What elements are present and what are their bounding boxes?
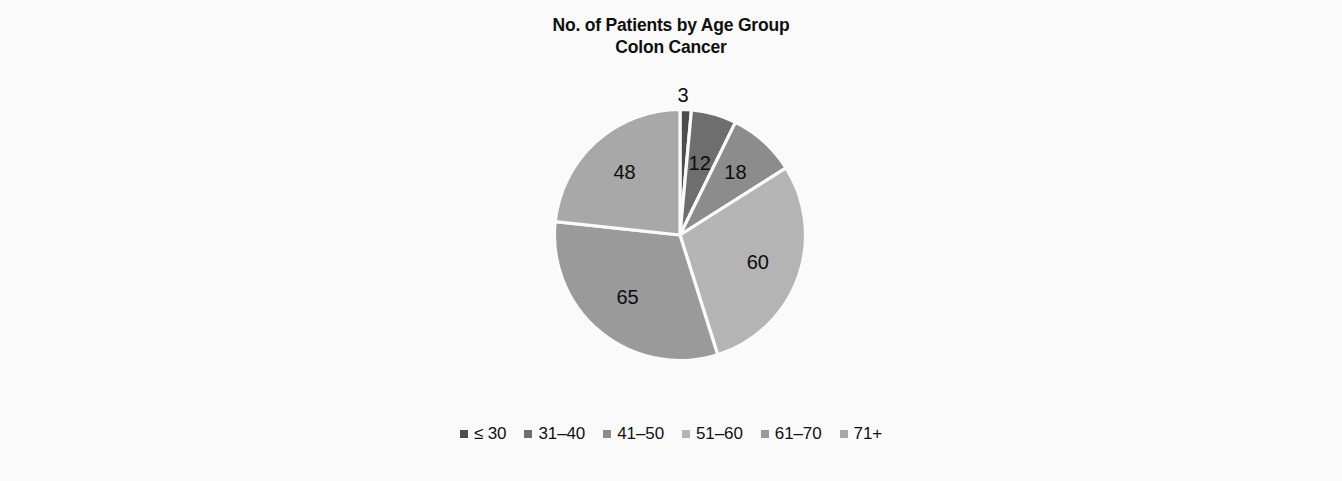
legend-label-1: 31–40 [538,424,585,444]
pie-chart: 1218606548 [553,108,807,362]
legend-item-5[interactable]: 71+ [840,424,883,444]
legend-label-0: ≤ 30 [474,424,507,444]
legend-item-0[interactable]: ≤ 30 [460,424,507,444]
legend-label-4: 61–70 [775,424,822,444]
legend-item-2[interactable]: 41–50 [603,424,664,444]
pie-chart-svg: 1218606548 [553,108,807,362]
legend-swatch-icon-1 [524,430,532,438]
legend-label-3: 51–60 [696,424,743,444]
legend-swatch-icon-2 [603,430,611,438]
legend-swatch-icon-0 [460,430,468,438]
chart-title: No. of Patients by Age Group Colon Cance… [0,14,1342,59]
pie-slice-value-label-4: 65 [616,286,638,308]
chart-legend: ≤ 3031–4041–5051–6061–7071+ [0,424,1342,444]
pie-slice-value-label-2: 18 [724,161,746,183]
legend-swatch-icon-5 [840,430,848,438]
legend-item-1[interactable]: 31–40 [524,424,585,444]
legend-item-3[interactable]: 51–60 [682,424,743,444]
pie-slice-group [554,110,805,361]
legend-label-5: 71+ [854,424,883,444]
legend-swatch-icon-3 [682,430,690,438]
legend-swatch-icon-4 [761,430,769,438]
pie-slice-value-label-5: 48 [613,161,635,183]
chart-title-line-2: Colon Cancer [0,36,1342,58]
chart-title-line-1: No. of Patients by Age Group [0,14,1342,36]
legend-item-4[interactable]: 61–70 [761,424,822,444]
pie-slice-value-label-0: 3 [653,85,713,105]
chart-figure: No. of Patients by Age Group Colon Cance… [0,0,1342,481]
pie-slice-value-label-3: 60 [747,251,769,273]
legend-label-2: 41–50 [617,424,664,444]
pie-slice-value-label-1: 12 [689,152,711,174]
